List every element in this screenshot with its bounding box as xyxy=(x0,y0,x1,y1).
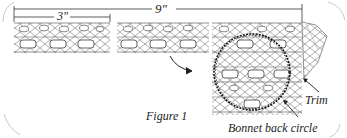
dimension-label-9in: 9" xyxy=(155,2,167,15)
lace-strip-3 xyxy=(212,23,302,115)
trim-piece xyxy=(302,22,327,78)
trim-leader-line xyxy=(303,78,319,92)
lace-strip-2 xyxy=(117,23,209,53)
dimension-label-3in: 3" xyxy=(57,10,68,22)
trim-label: Trim xyxy=(305,94,328,106)
figure-1-diagram: 9" 3" Trim Bonnet back circle Figure 1 xyxy=(0,0,347,138)
curved-arrow-icon xyxy=(170,56,192,74)
bonnet-back-circle-label: Bonnet back circle xyxy=(228,122,318,134)
figure-caption: Figure 1 xyxy=(146,110,187,122)
lace-strip-1 xyxy=(14,23,110,53)
